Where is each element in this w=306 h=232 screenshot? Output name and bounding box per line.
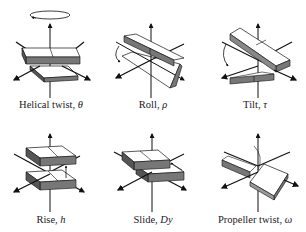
caption-rise: Rise, h — [0, 214, 102, 225]
caption-tilt: Tilt, τ — [204, 99, 306, 110]
caption-symbol: θ — [78, 99, 83, 110]
caption-symbol: Dy — [160, 214, 172, 225]
panel-tilt: Tilt, τ — [204, 0, 306, 116]
panel-slide: Slide, Dy — [102, 116, 204, 232]
panel-roll: Roll, ρ — [102, 0, 204, 116]
caption-propeller-twist: Propeller twist, ω — [204, 214, 306, 225]
caption-helical-twist: Helical twist, θ — [0, 99, 102, 110]
caption-label: Tilt, — [243, 99, 260, 110]
caption-label: Slide, — [133, 214, 157, 225]
caption-symbol: h — [60, 214, 65, 225]
caption-label: Rise, — [36, 214, 57, 225]
caption-label: Propeller twist, — [218, 214, 282, 225]
caption-label: Helical twist, — [19, 99, 75, 110]
panel-propeller-twist: Propeller twist, ω — [204, 116, 306, 232]
caption-symbol: ρ — [162, 99, 167, 110]
caption-roll: Roll, ρ — [102, 99, 204, 110]
caption-symbol: ω — [285, 214, 292, 225]
caption-symbol: τ — [263, 99, 267, 110]
caption-label: Roll, — [139, 99, 160, 110]
panel-rise: Rise, h — [0, 116, 102, 232]
caption-slide: Slide, Dy — [102, 214, 204, 225]
panel-helical-twist: Helical twist, θ — [0, 0, 102, 116]
